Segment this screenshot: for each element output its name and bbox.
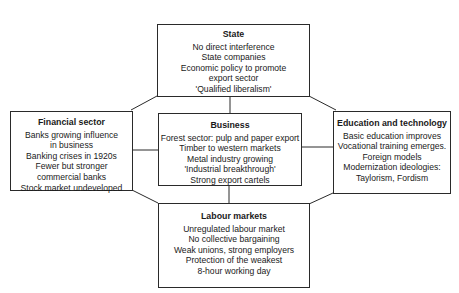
business-title: Business [159,120,301,131]
financial-item: Banking crises in 1920s [11,151,132,162]
education-box: Education and technology Basic education… [333,111,451,194]
financial-item: in business [11,140,132,151]
labour-item: No collective bargaining [159,234,309,245]
labour-title: Labour markets [159,211,309,222]
education-item: Modernization ideologies: [334,162,450,173]
labour-item: Unregulated labour market [159,224,309,235]
labour-item: Protection of the weakest [159,255,309,266]
business-box: Business Forest sector: pulp and paper e… [158,113,302,186]
state-item: Economic policy to promote [158,63,309,74]
business-item: Timber to western markets [159,143,301,154]
financial-item: Stock market undeveloped [11,183,132,194]
state-item: State companies [158,52,309,63]
business-item: Strong export cartels [159,175,301,186]
state-item: No direct interference [158,42,309,53]
education-item: Foreign models [334,152,450,163]
state-box: State No direct interference State compa… [157,24,310,97]
financial-item: Fewer but stronger [11,161,132,172]
labour-box: Labour markets Unregulated labour market… [158,203,310,288]
education-title: Education and technology [334,118,450,129]
business-item: Forest sector: pulp and paper export [159,133,301,144]
education-item: Basic education improves [334,131,450,142]
financial-title: Financial sector [11,117,132,128]
state-item: 'Qualified liberalism' [158,84,309,95]
financial-item: commercial banks [11,172,132,183]
state-title: State [158,29,309,40]
financial-box: Financial sector Banks growing influence… [10,111,133,191]
labour-item: Weak unions, strong employers [159,245,309,256]
business-item: Metal industry growing [159,154,301,165]
education-item: Vocational training emerges. [334,141,450,152]
business-item: 'Industrial breakthrough' [159,164,301,175]
financial-item: Banks growing influence [11,130,132,141]
state-item: export sector [158,73,309,84]
labour-item: 8-hour working day [159,266,309,277]
education-item: Taylorism, Fordism [334,173,450,184]
